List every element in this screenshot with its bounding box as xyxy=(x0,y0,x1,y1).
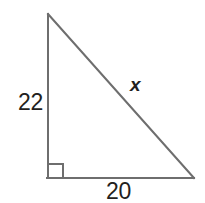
right-angle-marker-icon xyxy=(49,164,63,178)
horizontal-leg-label: 20 xyxy=(106,180,131,203)
vertical-leg-label: 22 xyxy=(18,91,43,114)
hypotenuse-label: x xyxy=(130,75,141,94)
right-triangle-figure: 22 20 x xyxy=(0,0,205,203)
hypotenuse-line xyxy=(48,14,194,178)
